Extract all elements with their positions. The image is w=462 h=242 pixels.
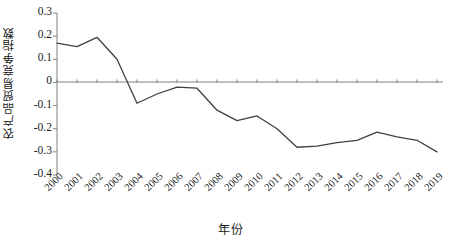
y-axis-tick-label: 0: [14, 74, 52, 86]
line-chart-plot: [0, 0, 462, 242]
y-axis-title: 农产品贸易竞争指数: [1, 26, 17, 139]
y-axis-tick-label: 0.3: [14, 5, 52, 17]
y-axis-tick-label: -0.1: [14, 98, 52, 110]
y-axis-tick-label: -0.2: [14, 121, 52, 133]
x-axis-title: 年份: [0, 220, 462, 237]
y-axis-tick-marks: [53, 13, 57, 175]
y-axis-tick-label: 0.1: [14, 51, 52, 63]
data-series-group: [57, 37, 437, 152]
chart-container: 0.30.20.10-0.1-0.2-0.3-0.4 2000200120022…: [0, 0, 462, 242]
chart-axes: [57, 13, 443, 175]
y-axis-tick-label: 0.2: [14, 28, 52, 40]
y-axis-tick-label: -0.4: [14, 167, 52, 179]
y-axis-tick-label: -0.3: [14, 144, 52, 156]
data-line-series-0: [57, 37, 437, 152]
